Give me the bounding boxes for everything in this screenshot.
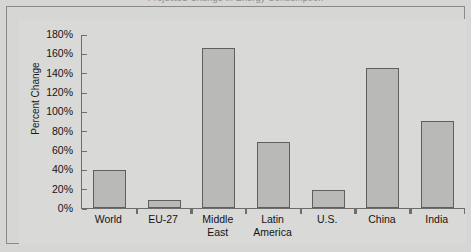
bar[interactable] — [202, 48, 235, 208]
bar-slot — [356, 35, 411, 208]
bar[interactable] — [366, 68, 399, 208]
cropped-title-fragment: Projected Change in Energy Consumption — [0, 0, 471, 5]
plot-area: 0%20%40%60%80%100%120%140%160%180% — [81, 35, 465, 209]
y-tick-label: 20% — [52, 183, 73, 196]
y-tick-label: 120% — [46, 86, 73, 99]
y-tick-label: 0% — [58, 202, 73, 215]
y-tick-label: 40% — [52, 163, 73, 176]
y-tick-mark — [82, 209, 87, 210]
bar-slot — [82, 35, 137, 208]
y-axis-title: Percent Change — [30, 44, 41, 154]
x-axis-label: U.S. — [300, 213, 355, 238]
bar[interactable] — [312, 190, 345, 208]
x-axis-label: EU-27 — [136, 213, 191, 238]
x-axis-label: India — [409, 213, 464, 238]
bar[interactable] — [148, 200, 181, 208]
y-tick-label: 160% — [46, 47, 73, 60]
y-tick-label: 80% — [52, 125, 73, 138]
x-axis-label: Middle East — [190, 213, 245, 238]
bar[interactable] — [93, 170, 126, 208]
bar[interactable] — [421, 121, 454, 208]
chart-figure: Projected Change in Energy Consumption P… — [0, 0, 471, 252]
bar-slot — [191, 35, 246, 208]
chart-outer-frame: Percent Change 0%20%40%60%80%100%120%140… — [6, 6, 465, 244]
bar[interactable] — [257, 142, 290, 208]
bar-slot — [301, 35, 356, 208]
x-axis-label: China — [355, 213, 410, 238]
chart-plot-panel: Percent Change 0%20%40%60%80%100%120%140… — [19, 19, 466, 245]
y-tick-label: 100% — [46, 105, 73, 118]
bar-slot — [410, 35, 465, 208]
x-axis-labels: WorldEU-27Middle EastLatin AmericaU.S.Ch… — [81, 213, 464, 238]
bar-slot — [137, 35, 192, 208]
x-axis-label: World — [81, 213, 136, 238]
x-axis-label: Latin America — [245, 213, 300, 238]
bar-slot — [246, 35, 301, 208]
y-tick-label: 180% — [46, 28, 73, 41]
y-tick-label: 140% — [46, 67, 73, 80]
bar-series — [82, 35, 465, 208]
y-tick-label: 60% — [52, 144, 73, 157]
